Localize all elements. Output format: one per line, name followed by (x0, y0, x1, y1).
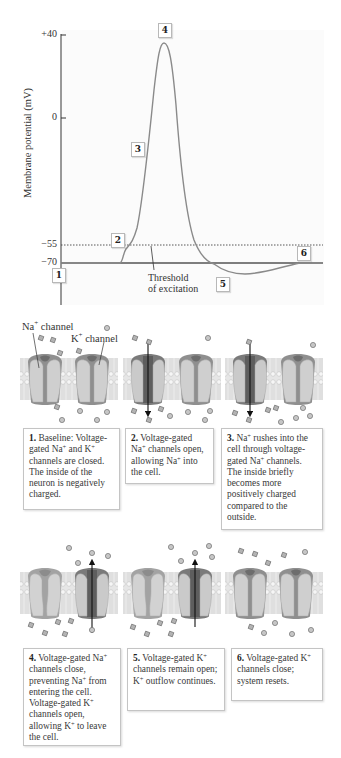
na-ion-icon (158, 406, 164, 412)
step-number: 1. (29, 433, 36, 443)
threshold-label: Threshold of excitation (148, 272, 198, 294)
tick-label-zero: 0 (27, 111, 57, 122)
k-label-suffix: channel (83, 333, 118, 344)
step-number: 2. (131, 433, 138, 443)
na-channel-pointer (33, 333, 39, 368)
stage-marker-6: 6 (297, 246, 311, 261)
k-channel-open-icon (75, 568, 109, 619)
na-ion-icon (50, 337, 56, 343)
na-ion-icon (54, 404, 60, 410)
membrane-panel-6 (225, 572, 323, 614)
threshold-label-line1: Threshold (148, 272, 198, 283)
k-ion-icon (89, 627, 94, 632)
k-ion-icon (202, 417, 207, 422)
membrane-panel-2 (123, 358, 221, 400)
step-caption-5: 5. Voltage-gated K+ channels remain open… (127, 648, 225, 711)
k-ion-icon (289, 631, 294, 636)
na-ion-icon (68, 618, 74, 624)
k-ion-icon (167, 413, 172, 418)
k-ion-icon (185, 409, 190, 414)
na-ion-icon (76, 348, 82, 354)
threshold-label-line2: of excitation (148, 283, 198, 294)
na-channel-inactivated-icon (28, 568, 62, 619)
na-ion-icon (55, 619, 61, 625)
plot-area (62, 30, 324, 305)
na-ion-icon (248, 624, 254, 630)
step-text: Baseline: Voltage-gated Na+ and K+ chann… (29, 433, 107, 499)
step-caption-6: 6. Voltage-gated K+ channels close; syst… (231, 648, 323, 701)
membrane-panel-4 (20, 572, 118, 614)
k-ion-icon (302, 549, 307, 554)
tick-label-m70: −70 (27, 256, 57, 267)
na-ion-icon (265, 407, 271, 413)
step-text: Voltage-gated Na+ channels close, preven… (29, 653, 107, 742)
k-ion-icon (209, 554, 214, 559)
na-channel-icon (28, 354, 62, 405)
k-channel-pointer (99, 342, 104, 365)
k-ion-icon (300, 405, 305, 410)
k-ion-icon (104, 409, 109, 414)
na-ion-icon (281, 552, 287, 558)
k-ion-icon (310, 342, 315, 347)
membrane-panel-1 (20, 358, 118, 400)
na-channel-inactivated-icon (131, 568, 165, 619)
k-ion-icon (206, 543, 211, 548)
stage-marker-1: 1 (52, 268, 66, 283)
k-ion-icon (205, 335, 210, 340)
tick-label-m55: −55 (27, 238, 57, 249)
k-ion-icon (66, 545, 71, 550)
step-number: 5. (133, 653, 140, 663)
k-ion-icon (94, 417, 99, 422)
k-ion-icon (89, 550, 94, 555)
k-ion-icon (105, 553, 110, 558)
k-channel-icon (179, 354, 213, 405)
na-ion-icon (171, 618, 177, 624)
na-ion-icon (252, 551, 258, 557)
na-ion-icon (246, 417, 252, 423)
step-caption-2: 2. Voltage-gated Na+ channels open, allo… (125, 428, 214, 484)
membrane-panel-3 (225, 358, 323, 400)
stage-marker-3: 3 (131, 142, 145, 157)
k-channel-icon (75, 354, 109, 405)
na-ion-icon (42, 630, 48, 636)
na-ion-icon (232, 410, 238, 416)
step-caption-1: 1. Baseline: Voltage-gated Na+ and K+ ch… (23, 428, 120, 510)
k-ion-icon (307, 413, 312, 418)
step-text: Voltage-gated K+ channels close; system … (237, 653, 311, 686)
y-axis-label: Membrane potential (mV) (22, 88, 33, 198)
na-label-suffix: channel (38, 321, 73, 332)
na-ion-icon (130, 624, 136, 630)
k-label-text: K (71, 333, 79, 344)
na-ion-icon (144, 631, 150, 637)
na-channel-open-icon (233, 354, 267, 405)
k-ion-icon (75, 560, 80, 565)
na-ion-icon (28, 622, 34, 628)
k-channel-open-icon (178, 568, 212, 619)
na-ion-icon (131, 408, 137, 414)
na-ion-icon (246, 339, 252, 345)
k-ion-icon (261, 630, 266, 635)
na-ion-icon (273, 405, 279, 411)
na-ion-icon (157, 620, 163, 626)
k-ion-icon (192, 550, 197, 555)
k-ion-icon (308, 627, 313, 632)
stage-marker-5: 5 (216, 277, 230, 292)
step-number: 3. (227, 433, 234, 443)
step-caption-3: 3. Na+ rushes into the cell through volt… (221, 428, 323, 530)
k-channel-icon (281, 354, 315, 405)
na-channel-open-icon (131, 354, 165, 405)
na-ion-icon (57, 350, 63, 356)
step-text: Na+ rushes into the cell through voltage… (227, 433, 308, 522)
k-ion-icon (104, 325, 109, 330)
na-ion-icon (146, 339, 152, 345)
k-ion-icon (293, 415, 298, 420)
na-channel-icon (233, 568, 267, 619)
tick-label-p40: +40 (27, 28, 57, 39)
step-caption-4: 4. Voltage-gated Na+ channels close, pre… (23, 648, 121, 746)
na-ion-icon (132, 335, 138, 341)
k-ion-icon (207, 408, 212, 413)
na-channel-label: Na+ channel (22, 319, 73, 332)
step-number: 6. (237, 653, 244, 663)
membrane-panel-5 (123, 572, 221, 614)
k-ion-icon (272, 620, 277, 625)
